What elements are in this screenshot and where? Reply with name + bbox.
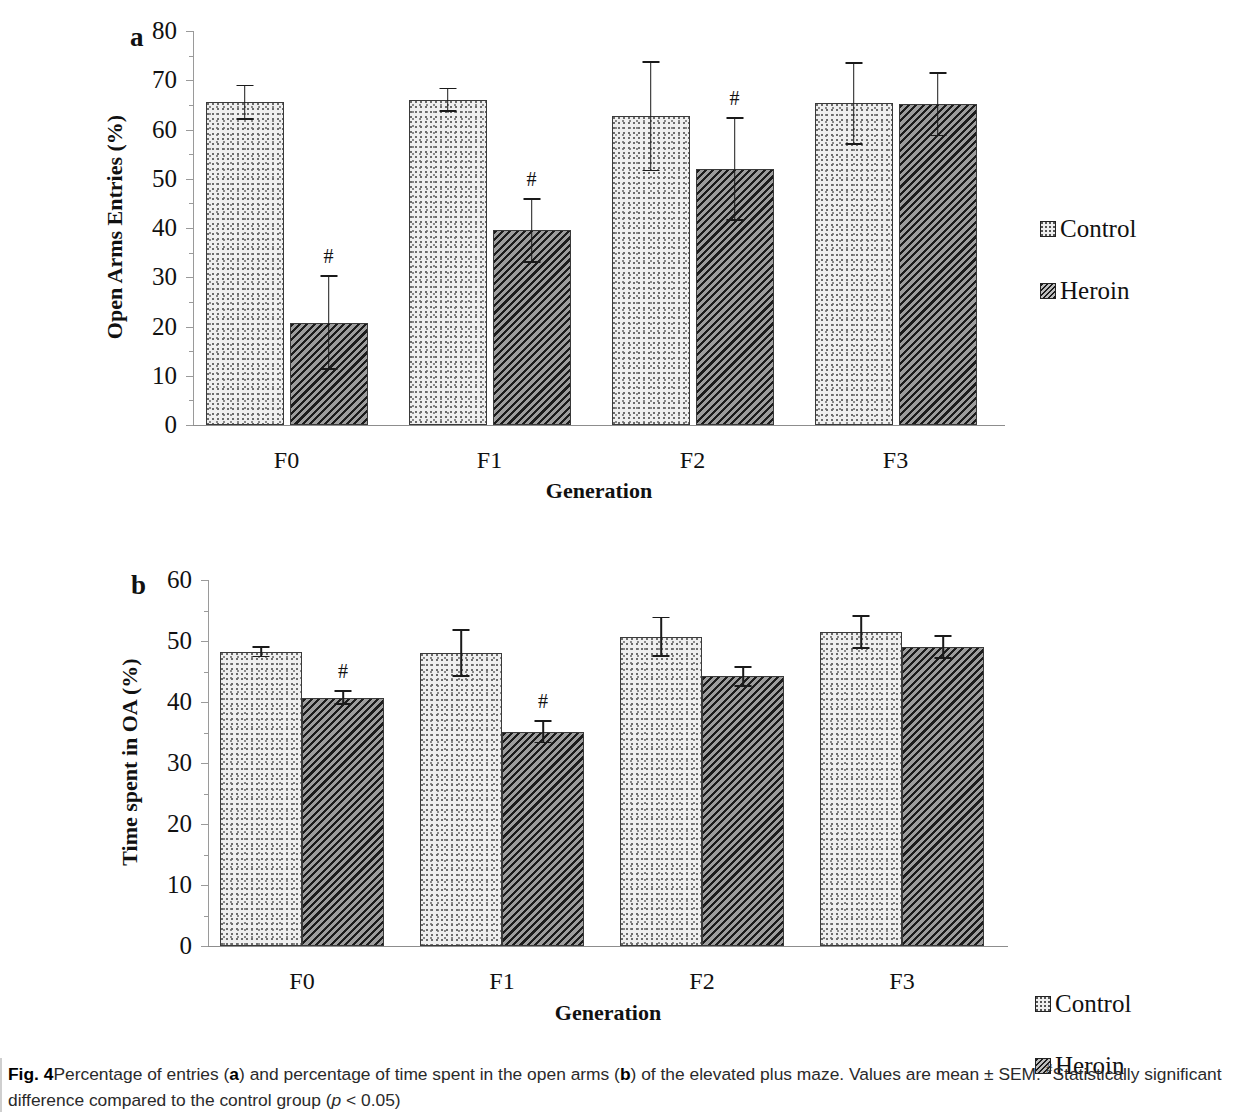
y-axis-tick — [186, 228, 193, 229]
error-bar — [235, 85, 255, 120]
error-bar-stem — [328, 275, 330, 370]
error-bar-cap-upper — [320, 275, 337, 277]
caption-rule — [0, 1058, 2, 1112]
error-bar-stem — [660, 617, 662, 657]
error-bar — [438, 88, 458, 113]
bar-control-F1 — [409, 100, 487, 425]
significance-marker: # — [538, 690, 548, 713]
heroin-swatch-icon — [1040, 283, 1056, 299]
error-bar-cap-lower — [853, 647, 870, 649]
y-axis-tick — [186, 179, 193, 180]
y-axis-minor-tick — [189, 400, 193, 401]
error-bar-cap-upper — [535, 720, 552, 722]
error-bar-cap-lower — [726, 219, 743, 221]
y-axis-minor-tick — [189, 253, 193, 254]
error-bar-cap-lower — [935, 657, 952, 659]
error-bar-cap-lower — [320, 368, 337, 370]
error-bar-cap-upper — [726, 117, 743, 119]
error-bar-cap-upper — [253, 646, 270, 648]
error-bar-cap-upper — [335, 690, 352, 692]
y-axis-title-b: Time spent in OA (%) — [117, 579, 143, 945]
legend-item-control: Control — [1035, 990, 1131, 1018]
y-axis-tick — [186, 425, 193, 426]
caption-text-5: < 0.05) — [341, 1090, 400, 1110]
panel-b: b 0102030405060#F0#F1F2F3 Time spent in … — [0, 545, 1258, 1055]
control-swatch-icon — [1040, 221, 1056, 237]
error-bar-stem — [734, 117, 736, 220]
legend-item-heroin: Heroin — [1040, 277, 1136, 305]
error-bar — [641, 61, 661, 171]
x-axis-category-label: F0 — [274, 447, 299, 474]
figure-label: Fig. 4 — [8, 1064, 53, 1084]
x-axis-category-label: F2 — [680, 447, 705, 474]
error-bar-cap-lower — [735, 685, 752, 687]
control-swatch-icon — [1035, 996, 1051, 1012]
y-axis-line — [193, 31, 194, 425]
plot-area-a: 01020304050607080#F0#F1#F2F3 — [193, 31, 1005, 425]
error-bar-cap-upper — [845, 62, 862, 64]
caption-ref-b: b — [620, 1064, 631, 1084]
bar-control-F2 — [620, 637, 702, 946]
caption-text-2: ) and percentage of time spent in the op… — [239, 1064, 620, 1084]
error-bar-cap-upper — [935, 635, 952, 637]
error-bar — [851, 615, 871, 649]
error-bar-cap-lower — [439, 110, 456, 112]
error-bar-cap-upper — [453, 629, 470, 631]
legend-a: Control Heroin — [1040, 215, 1136, 339]
error-bar — [733, 666, 753, 687]
y-axis-minor-tick — [189, 203, 193, 204]
error-bar-cap-lower — [642, 170, 659, 172]
legend-label-control: Control — [1055, 990, 1131, 1018]
significance-marker: # — [730, 87, 740, 110]
error-bar — [533, 720, 553, 743]
significance-marker: # — [527, 168, 537, 191]
error-bar — [319, 275, 339, 370]
error-bar — [725, 117, 745, 220]
figure-page: a 01020304050607080#F0#F1#F2F3 Open Arms… — [0, 0, 1258, 1115]
error-bar-stem — [531, 198, 533, 263]
x-axis-category-label: F3 — [883, 447, 908, 474]
legend-label-heroin: Heroin — [1060, 277, 1129, 305]
y-axis-tick — [201, 763, 208, 764]
x-axis-title-a: Generation — [193, 478, 1005, 504]
legend-label-control: Control — [1060, 215, 1136, 243]
error-bar — [651, 617, 671, 657]
error-bar — [522, 198, 542, 263]
y-axis-title-a: Open Arms Entries (%) — [102, 30, 128, 424]
x-axis-line — [193, 425, 1005, 426]
bar-control-F0 — [206, 102, 284, 425]
x-axis-category-label: F3 — [889, 968, 914, 995]
error-bar — [928, 72, 948, 136]
y-axis-minor-tick — [189, 105, 193, 106]
caption-text-3: ) of the elevated plus maze. Values are … — [631, 1064, 1046, 1084]
error-bar-cap-lower — [845, 143, 862, 145]
error-bar-cap-upper — [642, 61, 659, 63]
x-axis-category-label: F1 — [489, 968, 514, 995]
error-bar-cap-lower — [253, 656, 270, 658]
error-bar-stem — [860, 615, 862, 649]
error-bar-cap-lower — [523, 261, 540, 263]
figure-caption: Fig. 4Percentage of entries (a) and perc… — [8, 1056, 1252, 1113]
bar-heroin-F3 — [899, 104, 977, 425]
error-bar — [251, 646, 271, 657]
error-bar-cap-lower — [335, 703, 352, 705]
y-axis-tick — [186, 327, 193, 328]
y-axis-minor-tick — [189, 302, 193, 303]
error-bar — [333, 690, 353, 705]
y-axis-tick — [186, 80, 193, 81]
bar-heroin-F0 — [302, 698, 384, 946]
bar-heroin-F2 — [702, 676, 784, 946]
x-axis-category-label: F0 — [289, 968, 314, 995]
y-axis-minor-tick — [189, 351, 193, 352]
y-axis-minor-tick — [189, 56, 193, 57]
error-bar-stem — [937, 72, 939, 136]
error-bar-stem — [853, 62, 855, 145]
y-axis-tick — [201, 702, 208, 703]
caption-p-italic: p — [332, 1090, 342, 1110]
y-axis-line — [208, 580, 209, 946]
bar-control-F0 — [220, 652, 302, 946]
error-bar — [933, 635, 953, 659]
y-axis-minor-tick — [204, 916, 208, 917]
y-axis-minor-tick — [204, 855, 208, 856]
significance-marker: # — [324, 245, 334, 268]
